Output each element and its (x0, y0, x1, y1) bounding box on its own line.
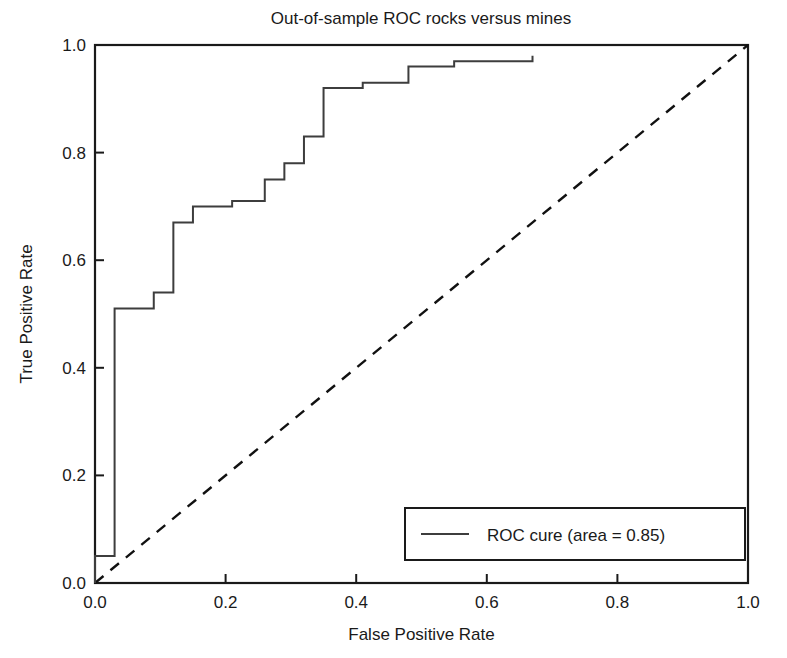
y-tick-label-1: 0.2 (62, 466, 86, 485)
x-tick-label-0: 0.0 (83, 593, 107, 612)
y-tick-label-0: 0.0 (62, 574, 86, 593)
y-tick-label-2: 0.4 (62, 359, 86, 378)
x-tick-label-1: 0.2 (214, 593, 238, 612)
y-tick-label-5: 1.0 (62, 36, 86, 55)
y-tick-label-3: 0.6 (62, 251, 86, 270)
y-axis-label: True Positive Rate (17, 244, 36, 383)
x-tick-label-4: 0.8 (606, 593, 630, 612)
chart-title: Out-of-sample ROC rocks versus mines (271, 9, 571, 28)
x-tick-label-2: 0.4 (344, 593, 368, 612)
y-tick-label-4: 0.8 (62, 144, 86, 163)
x-axis-label: False Positive Rate (348, 625, 494, 644)
x-tick-label-3: 0.6 (475, 593, 499, 612)
roc-chart-figure: Out-of-sample ROC rocks versus mines 0.0… (0, 0, 787, 658)
x-tick-label-5: 1.0 (736, 593, 760, 612)
chart-canvas: Out-of-sample ROC rocks versus mines 0.0… (0, 0, 787, 658)
chart-legend[interactable]: ROC cure (area = 0.85) (405, 508, 745, 560)
legend-label-roc: ROC cure (area = 0.85) (487, 526, 665, 545)
